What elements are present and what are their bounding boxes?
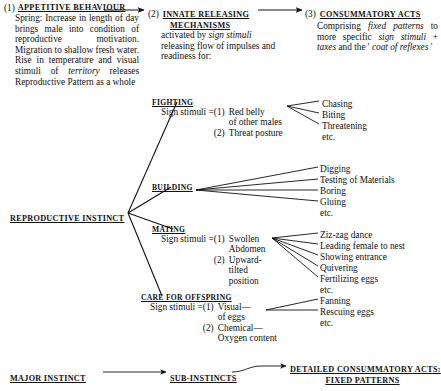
stimulus-text: Oxygen content xyxy=(218,333,277,343)
stimulus-text: of other males xyxy=(229,117,282,127)
branch-stimuli: Sign stimuli = (1)Visual— of eggs (2)Che… xyxy=(150,302,277,344)
branch-mating: MATING Sign stimuli = (1)Swollen Abdomen… xyxy=(152,225,265,286)
act-item: Rescuing eggs xyxy=(320,307,374,318)
act-item: Fertilizing eggs xyxy=(320,274,405,285)
stage-body: Spring: Increase in length of day brings… xyxy=(15,13,139,87)
branch-heading: BUILDING xyxy=(152,183,193,192)
stimulus-text: Red belly xyxy=(229,107,265,117)
stimuli-label: Sign stimuli = xyxy=(150,302,203,312)
legend-major-instinct: MAJOR INSTINCT xyxy=(10,367,86,385)
act-item: etc. xyxy=(322,132,367,143)
stimulus-number-cont xyxy=(214,265,229,275)
stage-number: (3) xyxy=(305,9,316,19)
legend-sub-label: SUB-INSTINCTS xyxy=(170,374,237,383)
stimulus-number: (2) xyxy=(203,323,218,333)
stimuli-list: (1)Swollen Abdomen (2)Upward- tilted pos… xyxy=(214,234,266,286)
branch-fighting: FIGHTING Sign stimuli = (1)Red belly of … xyxy=(152,98,283,138)
stage-appetitive-behaviour: (1) APPETITIVE BEHAVIOUR Spring: Increas… xyxy=(4,3,139,87)
stimulus-number-cont xyxy=(203,333,218,343)
stimuli-label: Sign stimuli = xyxy=(161,107,214,117)
stimuli-list: (1)Visual— of eggs (2)Chemical— Oxygen c… xyxy=(203,302,277,344)
act-item: etc. xyxy=(320,285,405,296)
act-item: Testing of Materials xyxy=(320,175,395,186)
stimulus-text: position xyxy=(229,276,259,286)
legend-detailed-acts: DETAILED CONSUMMATORY ACTS: FIXED PATTER… xyxy=(290,358,435,385)
stimulus-text: tilted xyxy=(229,265,248,275)
stage-consummatory-acts: (3) CONSUMMATORY ACTS Comprising fixed p… xyxy=(305,3,438,53)
stimulus-number: (2) xyxy=(214,128,229,138)
root-label-text: REPRODUCTIVE INSTINCT xyxy=(10,214,124,223)
stimulus-number-cont xyxy=(214,244,229,254)
act-item: Digging xyxy=(320,164,395,175)
branch-stimuli: Sign stimuli = (1)Red belly of other mal… xyxy=(161,107,283,138)
stimulus-text: Upward- xyxy=(229,255,262,265)
branch-care-for-offspring: CARE FOR OFFSPRING Sign stimuli = (1)Vis… xyxy=(141,293,277,344)
act-item: Showing entrance xyxy=(320,252,405,263)
branch-stimuli: Sign stimuli = (1)Swollen Abdomen (2)Upw… xyxy=(161,234,265,286)
acts-list-fighting: Chasing Biting Threatening etc. xyxy=(322,99,367,143)
root-reproductive-instinct: REPRODUCTIVE INSTINCT xyxy=(10,207,124,225)
stimulus-text: Abdomen xyxy=(229,244,266,254)
stimuli-list: (1)Red belly of other males (2)Threat po… xyxy=(214,107,283,138)
stage-heading: APPETITIVE BEHAVIOUR xyxy=(18,3,126,12)
branch-heading: CARE FOR OFFSPRING xyxy=(141,293,277,302)
stimulus-number-cont xyxy=(214,276,229,286)
branch-building: BUILDING xyxy=(152,183,193,192)
stimuli-label: Sign stimuli = xyxy=(161,234,214,244)
stimulus-number: (2) xyxy=(214,255,229,265)
stimulus-text: Visual— xyxy=(218,302,251,312)
stage-heading: INNATE RELEASING xyxy=(163,10,249,19)
branch-heading: FIGHTING xyxy=(152,98,283,107)
stage-innate-releasing-mechanisms: (2) INNATE RELEASING MECHANISMS activate… xyxy=(148,3,280,62)
act-item: Leading female to nest xyxy=(320,241,405,252)
legend-major-label: MAJOR INSTINCT xyxy=(10,374,86,383)
stimulus-text: Chemical— xyxy=(218,323,263,333)
stimulus-number-cont xyxy=(203,312,218,322)
stimulus-number: (1) xyxy=(214,107,229,117)
acts-list-building: Digging Testing of Materials Boring Glui… xyxy=(320,164,395,219)
stage-heading: CONSUMMATORY ACTS xyxy=(320,10,421,19)
act-item: Fanning xyxy=(320,296,374,307)
act-item: Ziz-zag dance xyxy=(320,230,405,241)
stage-number: (1) xyxy=(4,3,15,13)
act-item: Quivering xyxy=(320,263,405,274)
stage-heading-line2: MECHANISMS xyxy=(170,21,280,30)
acts-list-mating: Ziz-zag dance Leading female to nest Sho… xyxy=(320,230,405,297)
stimulus-number: (1) xyxy=(214,234,229,244)
stimulus-text: of eggs xyxy=(218,312,245,322)
legend-detail-label-line1: DETAILED CONSUMMATORY ACTS: xyxy=(290,365,441,374)
acts-list-care-for-offspring: Fanning Rescuing eggs etc. xyxy=(320,296,374,329)
legend-detail-label-line2: FIXED PATTERNS xyxy=(290,376,435,385)
act-item: Biting xyxy=(322,110,367,121)
stimulus-number-cont xyxy=(214,117,229,127)
stage-number: (2) xyxy=(148,9,159,19)
legend-sub-instincts: SUB-INSTINCTS xyxy=(170,367,237,385)
stimulus-text: Swollen xyxy=(229,234,259,244)
act-item: etc. xyxy=(320,318,374,329)
act-item: Boring xyxy=(320,186,395,197)
act-item: Chasing xyxy=(322,99,367,110)
act-item: etc. xyxy=(320,208,395,219)
act-item: Gluing xyxy=(320,197,395,208)
stimulus-number: (1) xyxy=(203,302,218,312)
act-item: Threatening xyxy=(322,121,367,132)
stimulus-text: Threat posture xyxy=(229,128,283,138)
branch-heading: MATING xyxy=(152,225,265,234)
stage-body: activated by sign stimuli releasing flow… xyxy=(161,30,279,62)
stage-body: Comprising fixed patterns to more specif… xyxy=(317,21,438,53)
